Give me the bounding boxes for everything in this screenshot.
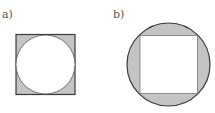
- figure-a: [16, 35, 75, 95]
- inner-circle-a: [16, 35, 75, 94]
- diagram-canvas: [0, 0, 215, 113]
- figure-b: [127, 23, 210, 106]
- inner-square-b: [140, 36, 198, 94]
